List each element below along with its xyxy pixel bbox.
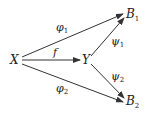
node-b2: B2 [125,94,139,110]
commutative-diagram: X Y B1 B2 φ1 f φ2 ψ1 ψ2 [0,0,147,117]
edge-phi2 [22,64,123,102]
label-phi1: φ1 [56,21,68,35]
label-f: f [52,46,59,59]
node-x: X [9,53,19,67]
label-phi2: φ2 [56,82,68,96]
node-b1: B1 [125,7,139,23]
edge-phi1 [22,14,123,57]
node-y: Y [82,53,91,67]
label-psi2: ψ2 [111,70,124,84]
label-psi1: ψ1 [111,35,124,49]
